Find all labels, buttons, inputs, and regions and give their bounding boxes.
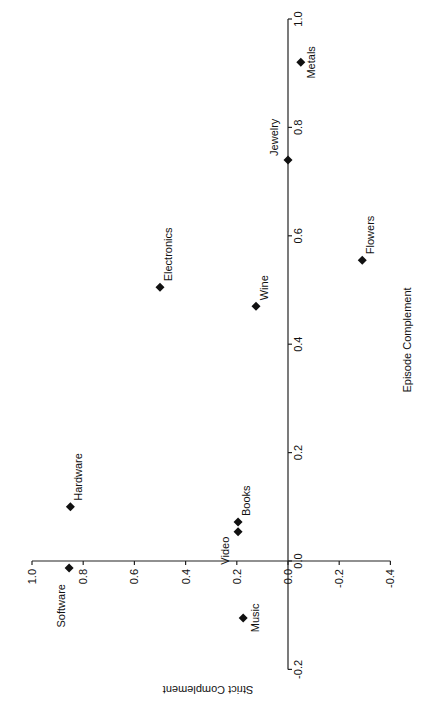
data-point-video	[234, 527, 243, 536]
y-tick-label: 1.0	[26, 569, 38, 584]
scatter-chart: -0.20.00.20.40.60.81.0-0.4-0.20.00.20.40…	[0, 0, 435, 716]
ticks: -0.20.00.20.40.60.81.0-0.4-0.20.00.20.40…	[26, 11, 396, 679]
data-point-software	[65, 564, 74, 573]
x-tick-label: 0.0	[292, 553, 304, 568]
point-label-video: Video	[219, 537, 231, 565]
y-tick-label: 0.6	[128, 569, 140, 584]
y-tick-label: 0.0	[282, 569, 294, 584]
x-tick-label: 0.6	[292, 228, 304, 243]
point-label-metals: Metals	[305, 46, 317, 79]
y-tick-label: -0.2	[333, 569, 345, 588]
point-label-electronics: Electronics	[162, 227, 174, 281]
point-label-hardware: Hardware	[72, 453, 84, 501]
y-tick-label: -0.4	[384, 569, 396, 588]
point-label-software: Software	[55, 584, 67, 627]
y-tick-label: 0.2	[231, 569, 243, 584]
y-tick-label: 0.8	[77, 569, 89, 584]
point-label-flowers: Flowers	[364, 215, 376, 254]
point-label-jewelry: Jewelry	[268, 118, 280, 156]
y-tick-label: 0.4	[180, 569, 192, 584]
data-point-hardware	[66, 502, 75, 511]
data-point-flowers	[358, 256, 367, 265]
data-point-music	[239, 613, 248, 622]
point-label-wine: Wine	[258, 275, 270, 300]
x-tick-label: 0.8	[292, 120, 304, 135]
data-point-books	[234, 517, 243, 526]
x-axis-title: Episode Complement	[401, 287, 413, 392]
data-point-wine	[252, 302, 261, 311]
point-label-books: Books	[240, 485, 252, 516]
y-axis-title: Strict Complement	[163, 684, 253, 696]
data-point-jewelry	[284, 155, 293, 164]
x-tick-label: 0.4	[292, 337, 304, 352]
data-points: MetalsJewelryFlowersElectronicsWineHardw…	[55, 46, 376, 633]
point-label-music: Music	[249, 603, 261, 632]
x-tick-label: 1.0	[292, 11, 304, 26]
data-point-electronics	[156, 283, 165, 292]
x-tick-label: -0.2	[292, 660, 304, 679]
x-tick-label: 0.2	[292, 445, 304, 460]
